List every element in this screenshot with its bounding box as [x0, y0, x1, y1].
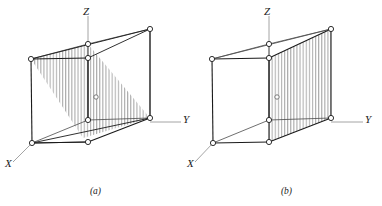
panel-b-caption-wrap: (b) [191, 180, 382, 198]
lattice-point [85, 55, 90, 60]
lattice-point [85, 139, 90, 144]
figure-container: Z Y X (a) [0, 0, 382, 206]
lattice-point [266, 117, 271, 122]
lattice-point [266, 139, 271, 144]
lattice-point [266, 41, 271, 46]
lattice-point [29, 140, 34, 145]
axis-label-x: X [187, 158, 194, 169]
lattice-point [85, 117, 90, 122]
center-marker-circle [94, 95, 98, 99]
hatched-plane-b [269, 29, 331, 142]
panel-a-drawing [0, 0, 191, 206]
panel-a-caption-wrap: (a) [0, 180, 191, 198]
lattice-point [147, 115, 152, 120]
lattice-point [85, 41, 90, 46]
panel-b-drawing [191, 0, 382, 206]
axis-label-y: Y [365, 114, 371, 125]
lattice-point [328, 115, 333, 120]
lattice-point [328, 26, 333, 31]
panel-b: Z Y X (b) [191, 0, 382, 206]
lattice-point [209, 56, 214, 61]
axis-label-x: X [5, 158, 12, 169]
axis-label-y: Y [183, 114, 189, 125]
lattice-point [28, 56, 33, 61]
lattice-point [147, 26, 152, 31]
panel-a-caption: (a) [90, 187, 101, 197]
panel-a: Z Y X (a) [0, 0, 191, 206]
panel-b-caption: (b) [281, 187, 292, 197]
axis-label-z: Z [83, 6, 89, 17]
lattice-point [266, 55, 271, 60]
lattice-point [210, 140, 215, 145]
center-marker-circle [275, 95, 279, 99]
axis-label-z: Z [264, 6, 270, 17]
